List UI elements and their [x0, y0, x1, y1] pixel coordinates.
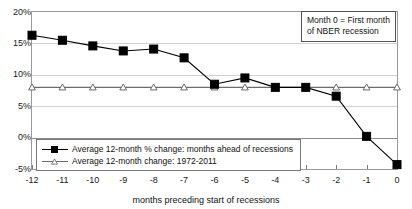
x-axis-title: months preceding start of recessions [0, 195, 412, 205]
y-axis-label: 10% [1, 70, 31, 79]
legend-label-primary: Average 12-month % change: months ahead … [72, 143, 293, 155]
annotation-line-1: Month 0 = First month [307, 15, 390, 26]
data-point-marker-square [302, 83, 310, 91]
chart-container: 20%15%10%5%0%-5% -12-11-10-9-8-7-6-5-4-3… [0, 0, 412, 209]
x-axis-label: -8 [142, 176, 166, 185]
legend-swatch-filled-square-icon [42, 144, 68, 154]
data-point-marker-square [150, 45, 158, 53]
y-axis-label: 5% [1, 102, 31, 111]
y-axis-label: -5% [1, 165, 31, 174]
data-point-marker-square [28, 31, 36, 39]
x-axis-label: -3 [294, 176, 318, 185]
x-axis-label: -2 [324, 176, 348, 185]
x-axis-label: -9 [111, 176, 135, 185]
x-axis-label: -11 [50, 176, 74, 185]
x-axis-label: -4 [263, 176, 287, 185]
x-axis-label: 0 [385, 176, 409, 185]
data-point-marker-square [332, 92, 340, 100]
data-point-marker-square [89, 42, 97, 50]
y-axis-label: 20% [1, 8, 31, 17]
data-point-marker-square [271, 83, 279, 91]
x-axis-label: -10 [81, 176, 105, 185]
x-axis-label: -12 [20, 176, 44, 185]
legend-label-secondary: Average 12-month change: 1972-2011 [72, 155, 217, 167]
data-point-marker-square [363, 132, 371, 140]
data-point-marker-square [393, 161, 401, 169]
x-axis-label: -1 [355, 176, 379, 185]
chart-legend: Average 12-month % change: months ahead … [36, 139, 301, 171]
x-axis-label: -6 [203, 176, 227, 185]
y-axis-label: 0% [1, 133, 31, 142]
data-point-marker-square [119, 47, 127, 55]
x-axis-label: -5 [233, 176, 257, 185]
legend-item-secondary: Average 12-month change: 1972-2011 [42, 155, 293, 167]
x-axis-label: -7 [172, 176, 196, 185]
data-point-marker-square [58, 36, 66, 44]
legend-swatch-open-triangle-icon [42, 156, 68, 166]
data-point-marker-square [180, 54, 188, 62]
y-axis-label: 15% [1, 39, 31, 48]
data-point-marker-square [211, 80, 219, 88]
annotation-month-zero: Month 0 = First month of NBER recession [301, 11, 396, 42]
annotation-line-2: of NBER recession [307, 26, 390, 37]
legend-item-primary: Average 12-month % change: months ahead … [42, 143, 293, 155]
data-point-marker-square [241, 74, 249, 82]
